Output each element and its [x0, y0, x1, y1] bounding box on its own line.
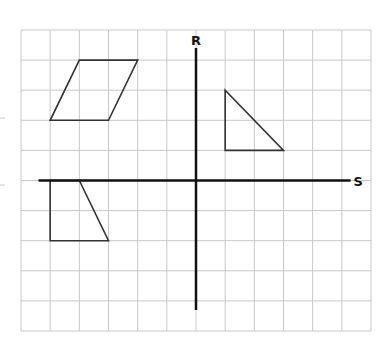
axis-label-r: R	[191, 33, 201, 48]
axes: R S	[39, 33, 363, 310]
coordinate-grid-diagram: R S	[0, 0, 383, 356]
edge-marks	[0, 118, 5, 185]
axis-label-s: S	[354, 174, 363, 189]
